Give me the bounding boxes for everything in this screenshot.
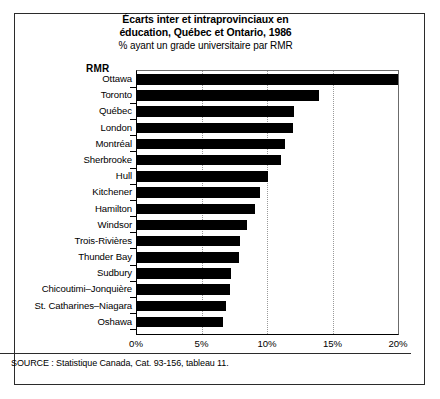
bar [137,301,226,312]
bar-row: Hamilton [0,201,411,217]
bar [137,236,240,247]
bar [137,252,239,263]
bar-row: Sherbrooke [0,152,411,168]
bar-track [137,90,399,101]
bar-row: Oshawa [0,314,411,330]
bar-category-label: Thunder Bay [78,251,132,262]
bar-category-label: Hull [116,170,132,181]
bar-track [137,236,399,247]
bar-track [137,268,399,279]
bar-row: London [0,120,411,136]
bar [137,106,294,117]
bar-row: Windsor [0,217,411,233]
bar-row: Québec [0,103,411,119]
bar-track [137,204,399,215]
bar-row: Sudbury [0,265,411,281]
bar-category-label: St. Catharines–Niagara [34,300,132,311]
bar-row: Hull [0,168,411,184]
bar [137,220,247,231]
x-tick-label: 15% [323,338,342,349]
x-tick-label: 10% [257,338,276,349]
bar-track [137,123,399,134]
bar-track [137,171,399,182]
bar [137,74,398,85]
bar-category-label: Toronto [101,89,132,100]
x-tick-label: 20% [388,338,407,349]
bar-row: Montréal [0,136,411,152]
bar-category-label: London [101,122,132,133]
bar [137,317,223,328]
bar-category-label: Sudbury [97,267,132,278]
bar-track [137,220,399,231]
bar-row: Chicoutimi–Jonquière [0,281,411,297]
bar-category-label: Hamilton [95,203,132,214]
bar [137,268,231,279]
bar-category-label: Sherbrooke [83,154,132,165]
x-axis: 0%5%10%15%20% [0,338,411,352]
bar-category-label: Oshawa [97,316,132,327]
x-tick-label: 5% [195,338,209,349]
bar [137,187,260,198]
bar [137,284,230,295]
bar-track [137,284,399,295]
bar-category-label: Montréal [95,138,132,149]
bar [137,171,268,182]
x-tick-label: 0% [129,338,143,349]
bar [137,155,281,166]
bar [137,123,293,134]
bar-row: Thunder Bay [0,249,411,265]
bar [137,90,319,101]
bar-track [137,106,399,117]
bar-track [137,187,399,198]
bar-rows: OttawaTorontoQuébecLondonMontréalSherbro… [0,71,411,330]
bar-row: Trois-Rivières [0,233,411,249]
bar-row: St. Catharines–Niagara [0,298,411,314]
source-note: SOURCE : Statistique Canada, Cat. 93-156… [11,358,229,368]
bar-row: Kitchener [0,184,411,200]
bar-row: Toronto [0,87,411,103]
source-divider [0,353,411,354]
bar-track [137,301,399,312]
bar-track [137,155,399,166]
category-tick-mark [130,329,136,330]
bar-track [137,139,399,150]
bar [137,204,255,215]
bar-category-label: Québec [99,105,132,116]
bar-category-label: Windsor [98,219,133,230]
bar-track [137,252,399,263]
bar [137,139,285,150]
bar-category-label: Ottawa [102,73,132,84]
bar-category-label: Kitchener [92,186,132,197]
bar-row: Ottawa [0,71,411,87]
bar-track [137,317,399,328]
chart-plot-area: OttawaTorontoQuébecLondonMontréalSherbro… [0,0,411,372]
bar-category-label: Trois-Rivières [75,235,132,246]
bar-track [137,74,399,85]
bar-category-label: Chicoutimi–Jonquière [42,283,132,294]
